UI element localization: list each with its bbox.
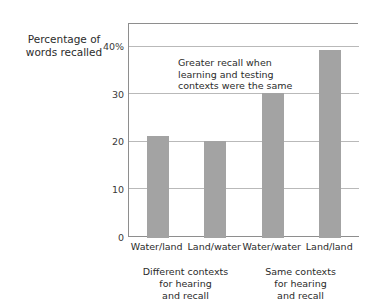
y-axis-tick-labels: 010203040%: [84, 23, 124, 237]
x-axis-group-labels: Different contextsfor hearingand recallS…: [128, 266, 367, 303]
group-label: Same contextsfor hearingand recall: [245, 266, 357, 302]
bar-chart: Percentage of words recalled 010203040% …: [0, 0, 367, 303]
category-label: Water/water: [241, 241, 303, 253]
annotation-line: contexts were the same: [178, 80, 318, 92]
bar: [204, 141, 226, 238]
annotation-line: Greater recall when: [178, 57, 318, 69]
group-label-line: for hearing: [245, 278, 357, 290]
y-tick-label: 10: [88, 185, 124, 195]
category-label: Land/water: [183, 241, 245, 253]
y-tick-label: 30: [88, 90, 124, 100]
y-tick-label: 0: [88, 233, 124, 243]
chart-annotation: Greater recall whenlearning and testingc…: [178, 57, 318, 92]
y-tick-label: 20: [88, 137, 124, 147]
group-label-line: and recall: [130, 290, 242, 302]
group-label-line: for hearing: [130, 278, 242, 290]
category-label: Land/land: [298, 241, 360, 253]
plot-area: [128, 23, 358, 237]
bar: [147, 136, 169, 238]
annotation-line: learning and testing: [178, 69, 318, 81]
x-axis-category-labels: Water/landLand/waterWater/waterLand/land: [128, 241, 358, 255]
bar: [319, 50, 341, 238]
category-label: Water/land: [126, 241, 188, 253]
group-label-line: Same contexts: [245, 266, 357, 278]
group-label-line: and recall: [245, 290, 357, 302]
bar: [262, 93, 284, 238]
y-tick-label: 40%: [88, 42, 124, 52]
group-label-line: Different contexts: [130, 266, 242, 278]
group-label: Different contextsfor hearingand recall: [130, 266, 242, 302]
